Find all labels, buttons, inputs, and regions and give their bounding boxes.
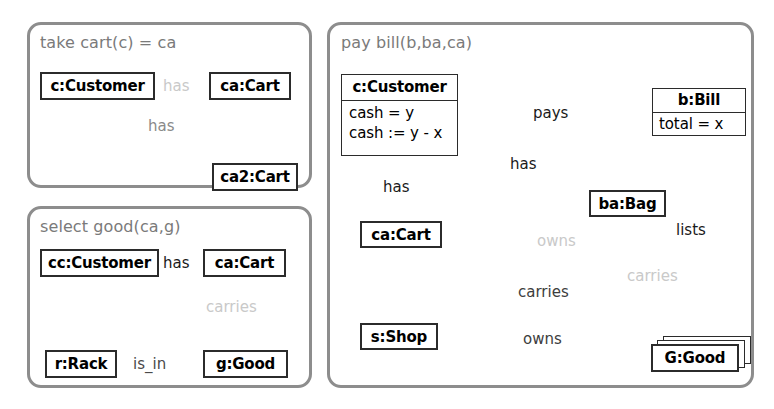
panel-pay-bill-title: pay bill(b,ba,ca) [341,33,472,52]
edge-label-p3-carries-ghost: carries [627,267,678,285]
object-g-good[interactable]: g:Good [203,350,288,378]
object-ca-cart[interactable]: ca:Cart [209,72,291,100]
edge-label-p1-has-created: has [148,117,175,135]
panel-select-good-title: select good(ca,g) [40,217,181,236]
edge-label-p3-carries: carries [518,283,569,301]
object-s-shop[interactable]: s:Shop [360,323,438,350]
object-header: c:Customer [342,75,457,101]
edge-label-p2-carries: carries [206,298,257,316]
object-attributes: cash = y cash := y - x [342,101,457,147]
object-b-bill[interactable]: b:Bill total = x [652,88,746,136]
edge-label-p3-owns-ghost: owns [537,232,576,250]
attribute-total: total = x [659,114,739,134]
object-select-good-ca-cart[interactable]: ca:Cart [203,249,286,277]
edge-label-p3-has-bag: has [510,155,537,173]
object-pay-bill-c-customer[interactable]: c:Customer cash = y cash := y - x [341,74,458,156]
object-G-good-stack[interactable]: G:Good [651,336,751,372]
object-attributes: total = x [653,113,745,136]
edge-label-p3-lists: lists [676,221,706,239]
object-G-good[interactable]: G:Good [651,344,739,372]
diagram-canvas: take cart(c) = ca c:Customer ca:Cart ca2… [0,0,774,409]
edge-label-p2-has: has [163,254,190,272]
edge-label-p3-pays: pays [533,104,568,122]
panel-take-cart-title: take cart(c) = ca [40,33,176,52]
object-c-customer[interactable]: c:Customer [40,72,155,100]
edge-label-p3-owns: owns [523,330,562,348]
attribute-cash-value: cash = y [349,103,451,123]
edge-label-p2-is-in: is_in [133,355,166,373]
object-ba-bag[interactable]: ba:Bag [589,190,666,217]
edge-label-p3-has-cart: has [383,178,410,196]
object-header: b:Bill [653,89,745,113]
object-pay-bill-ca-cart[interactable]: ca:Cart [360,221,442,248]
edge-label-p1-has-deleted: has [163,77,190,95]
object-cc-customer[interactable]: cc:Customer [40,249,159,277]
object-ca2-cart[interactable]: ca2:Cart [212,163,298,191]
object-r-rack[interactable]: r:Rack [45,350,117,378]
attribute-cash-assign: cash := y - x [349,123,451,143]
